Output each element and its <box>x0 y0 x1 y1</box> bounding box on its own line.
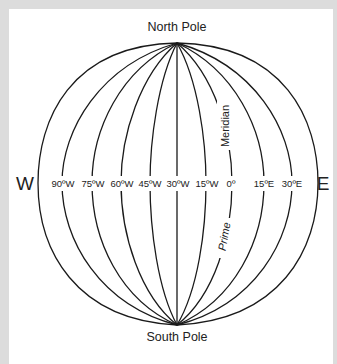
prime-meridian-label-top: Meridian <box>219 105 231 147</box>
meridian-labels: 90ºW 75ºW 60ºW 45ºW 30ºW 15ºW 0º 15ºE 30… <box>51 178 302 189</box>
meridian-label: 90ºW <box>51 178 74 189</box>
meridian-label: 60ºW <box>110 178 133 189</box>
east-label: E <box>317 173 330 194</box>
meridian-label: 75ºW <box>81 178 104 189</box>
meridian-label: 15ºW <box>195 178 218 189</box>
meridian-label: 45ºW <box>138 178 161 189</box>
meridian-label: 0º <box>227 178 236 189</box>
west-label: W <box>16 173 34 194</box>
globe-diagram: North Pole South Pole W E 90ºW 75ºW 60ºW… <box>0 0 337 364</box>
south-pole-label: South Pole <box>146 330 207 344</box>
meridian-label: 30ºE <box>282 178 302 189</box>
north-pole-label: North Pole <box>147 20 206 34</box>
meridian-label: 30ºW <box>166 178 189 189</box>
meridian-label: 15ºE <box>254 178 274 189</box>
